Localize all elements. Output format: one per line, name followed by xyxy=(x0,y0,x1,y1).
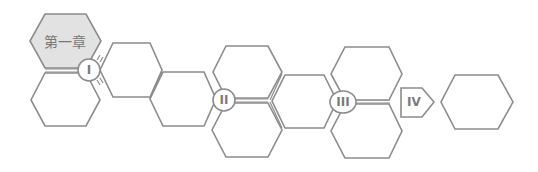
stage-badge-4: IV xyxy=(401,88,434,117)
hexagon-10 xyxy=(441,75,513,129)
stage-label-3: III xyxy=(336,95,349,109)
stage-badge-3: III xyxy=(330,91,356,113)
chapter-label: 第一章 xyxy=(44,34,86,50)
hexagon-7 xyxy=(272,75,337,128)
hexagon-4 xyxy=(150,72,216,126)
hexagon-flow-diagram: 第一章 I II III IV xyxy=(0,0,538,172)
stage-label-2: II xyxy=(220,93,229,107)
stage-badge-2: II xyxy=(213,89,235,111)
stage-label-4: IV xyxy=(407,95,421,109)
stage-badge-1: I xyxy=(78,59,100,81)
stage-label-1: I xyxy=(87,63,91,77)
hexagon-3 xyxy=(100,43,162,97)
